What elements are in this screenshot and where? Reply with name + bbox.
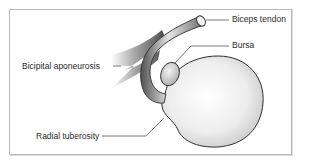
leader-line-radial-tuberosity — [102, 118, 164, 136]
label-bursa: Bursa — [232, 40, 254, 50]
bicipital-aponeurosis-shape — [111, 30, 166, 89]
label-radial-tuberosity: Radial tuberosity — [36, 131, 99, 141]
label-bicipital-aponeurosis: Bicipital aponeurosis — [22, 61, 100, 71]
label-biceps-tendon: Biceps tendon — [232, 14, 286, 24]
